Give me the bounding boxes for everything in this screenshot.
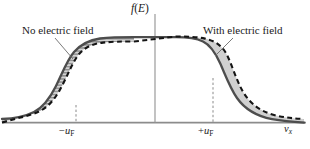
x-axis-label-subscript: x — [289, 127, 292, 136]
x-tick-label-plus-uf: +uF — [198, 126, 213, 137]
annotation-with-electric-field: With electric field — [203, 25, 283, 36]
annotation-no-electric-field: No electric field — [22, 25, 93, 36]
left-hatched-region — [0, 30, 145, 130]
y-axis-label-paren-close: ) — [145, 2, 149, 14]
x-tick-minus-subscript: F — [70, 129, 74, 138]
fermi-distribution-figure: No electric field With electric field f(… — [0, 0, 310, 149]
x-axis-label: vx — [284, 124, 292, 135]
plot-canvas — [0, 0, 310, 149]
y-axis-label: f(E) — [131, 3, 149, 15]
x-tick-label-minus-uf: −uF — [59, 126, 74, 137]
x-tick-plus-subscript: F — [209, 129, 213, 138]
leader-line-no-field — [55, 38, 73, 59]
right-gray-region — [176, 37, 304, 123]
